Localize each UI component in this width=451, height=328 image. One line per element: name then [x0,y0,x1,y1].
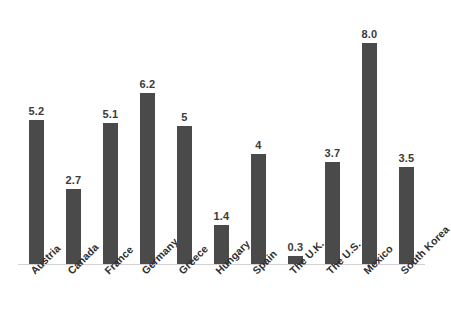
bar-mexico[interactable] [362,43,377,264]
bar-value-label: 6.2 [129,78,166,90]
bar-value-label: 5 [166,111,203,123]
bar-value-label: 4 [240,139,277,151]
bar-group-mexico: 8.0 Mexico [351,0,388,328]
bar-south-korea[interactable] [399,167,414,264]
bar-value-label: 3.5 [388,152,425,164]
bar-value-label: 2.7 [55,174,92,186]
bar-the-us[interactable] [325,162,340,264]
bar-value-label: 1.4 [203,210,240,222]
bar-value-label: 5.2 [18,105,55,117]
bar-value-label: 3.7 [314,147,351,159]
bar-greece[interactable] [177,126,192,264]
bar-group-greece: 5 Greece [166,0,203,328]
bar-group-the-us: 3.7 The U.S. [314,0,351,328]
bar-value-label: 5.1 [92,108,129,120]
bar-group-south-korea: 3.5 South Korea [388,0,425,328]
bar-germany[interactable] [140,93,155,264]
bar-group-canada: 2.7 Canada [55,0,92,328]
bar-spain[interactable] [251,154,266,264]
bar-group-france: 5.1 France [92,0,129,328]
bar-value-label: 8.0 [351,28,388,40]
bar-france[interactable] [103,123,118,264]
bar-group-germany: 6.2 Germany [129,0,166,328]
bar-group-spain: 4 Spain [240,0,277,328]
bar-group-hungary: 1.4 Hungary [203,0,240,328]
bar-austria[interactable] [29,120,44,264]
bar-group-austria: 5.2 Austria [18,0,55,328]
bar-group-the-uk: 0.3 The U.K. [277,0,314,328]
